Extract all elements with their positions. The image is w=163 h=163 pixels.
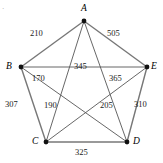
edge-weight-a-b: 210: [30, 29, 43, 38]
edge-weight-a-d: 365: [109, 74, 122, 83]
vertex-label-a: A: [81, 4, 87, 14]
graph-figure: · 210505345170365307190205310325 ABCDE: [0, 0, 163, 163]
vertex-label-e: E: [151, 62, 157, 72]
vertex-label-b: B: [6, 62, 12, 72]
vertex-dot-c: [44, 140, 49, 145]
vertex-label-c: C: [32, 137, 38, 147]
vertex-dot-b: [19, 65, 24, 70]
edge-c-e: [46, 67, 147, 142]
edge-weight-a-e: 505: [107, 29, 120, 38]
vertex-dot-a: [82, 19, 87, 24]
edge-a-c: [46, 21, 84, 142]
vertex-dot-e: [145, 65, 150, 70]
edge-weight-c-d: 325: [75, 148, 88, 157]
edge-weight-b-c: 307: [5, 100, 18, 109]
edge-weight-c-e: 205: [100, 101, 113, 110]
vertex-dot-d: [125, 140, 130, 145]
edge-weight-b-d: 170: [32, 74, 45, 83]
edge-weight-a-c: 190: [44, 101, 57, 110]
edge-weight-b-e: 345: [74, 62, 87, 71]
edge-weight-d-e: 310: [134, 100, 147, 109]
vertex-label-d: D: [133, 137, 140, 147]
